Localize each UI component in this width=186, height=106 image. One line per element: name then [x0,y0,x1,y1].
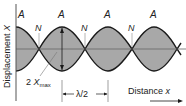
antinode-label-4: A [149,9,157,20]
antinode-label-2: A [57,9,65,20]
node-label-2: N [81,23,88,33]
antinode-label-1: A [17,9,25,20]
antinode-label-3: A [103,9,111,20]
half-wavelength-label: λ/2 [76,89,88,99]
amplitude-label: 2 Xmax [26,77,51,88]
y-axis-label: Displacement X [2,24,12,88]
distance-arrow [150,99,183,103]
node-label-1: N [35,23,42,33]
standing-wave-diagram: A A A A N N N 2 Xmax λ/2 Distance x Disp… [0,0,186,106]
node-label-3: N [128,23,135,33]
x-axis-label: Distance x [128,86,171,96]
